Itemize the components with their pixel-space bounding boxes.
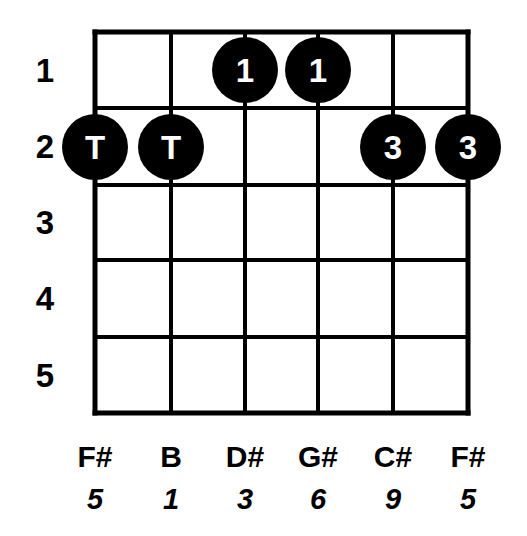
finger-dot-string4-fret1[interactable] [285,37,351,103]
finger-dot-string3-fret1[interactable] [212,37,278,103]
fret-number-3: 3 [25,206,65,239]
note-name-string-5: C# [353,442,433,472]
note-name-string-4: G# [278,442,358,472]
finger-dot-string6-fret2[interactable] [435,114,501,180]
note-name-string-6: F# [428,442,508,472]
finger-dot-string5-fret2[interactable] [360,114,426,180]
interval-string-6: 5 [428,485,508,514]
fret-number-5: 5 [25,359,65,392]
fret-number-1: 1 [25,54,65,87]
note-name-string-3: D# [205,442,285,472]
note-name-string-2: B [131,442,211,472]
note-name-string-1: F# [55,442,135,472]
interval-string-1: 5 [55,485,135,514]
interval-string-2: 1 [131,485,211,514]
fret-number-2: 2 [25,130,65,163]
chord-diagram: 12345 11TT33 F#BD#G#C#F# 513695 [0,0,527,536]
interval-string-3: 3 [205,485,285,514]
finger-dot-string2-fret2[interactable] [138,114,204,180]
fret-number-4: 4 [25,282,65,315]
finger-dot-string1-fret2[interactable] [62,114,128,180]
interval-string-4: 6 [278,485,358,514]
interval-string-5: 9 [353,485,433,514]
